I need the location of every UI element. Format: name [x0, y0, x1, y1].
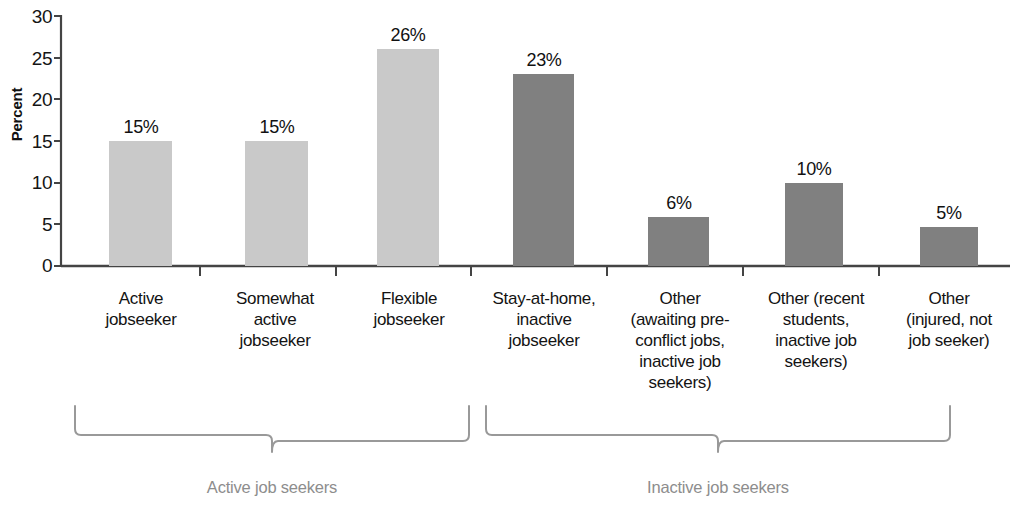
- x-category-line: job seeker): [884, 330, 1014, 351]
- bar-3: [513, 74, 574, 266]
- x-category-label-3: Stay-at-home, inactive jobseeker: [476, 288, 612, 351]
- x-category-label-0: Active jobseeker: [75, 288, 207, 330]
- group-label-inactive: Inactive job seekers: [612, 478, 824, 497]
- x-category-label-4: Other (awaiting pre- conflict jobs, inac…: [612, 288, 748, 393]
- x-category-line: inactive: [476, 309, 612, 330]
- bar-0: [109, 141, 172, 266]
- x-category-line: (awaiting pre-: [612, 309, 748, 330]
- x-axis: [61, 266, 1010, 276]
- x-category-line: (injured, not: [884, 309, 1014, 330]
- x-category-line: conflict jobs,: [612, 330, 748, 351]
- bar-value-2: 26%: [367, 25, 449, 46]
- bar-value-1: 15%: [236, 117, 318, 138]
- x-category-line: jobseeker: [209, 330, 341, 351]
- x-category-line: Other: [884, 288, 1014, 309]
- plot-area: [0, 0, 1020, 506]
- x-category-line: Stay-at-home,: [476, 288, 612, 309]
- y-axis: [54, 15, 61, 267]
- x-category-label-2: Flexible jobseeker: [343, 288, 475, 330]
- bars: [109, 49, 978, 266]
- x-category-line: seekers): [747, 351, 885, 372]
- bar-value-0: 15%: [100, 117, 182, 138]
- bar-6: [920, 227, 978, 266]
- x-category-line: active: [209, 309, 341, 330]
- group-brace-inactive: [486, 406, 950, 452]
- bar-1: [245, 141, 308, 266]
- bar-value-3: 23%: [503, 50, 585, 71]
- x-category-label-6: Other (injured, not job seeker): [884, 288, 1014, 351]
- x-category-line: students,: [747, 309, 885, 330]
- x-category-line: jobseeker: [476, 330, 612, 351]
- bar-value-6: 5%: [908, 203, 990, 224]
- bar-chart: Percent 30 25 20 15 10 5 0: [0, 0, 1020, 506]
- x-category-label-1: Somewhat active jobseeker: [209, 288, 341, 351]
- x-category-line: Somewhat: [209, 288, 341, 309]
- group-brace-active: [75, 406, 469, 452]
- x-category-line: jobseeker: [343, 309, 475, 330]
- x-category-line: jobseeker: [75, 309, 207, 330]
- group-label-active: Active job seekers: [172, 478, 372, 497]
- bar-value-4: 6%: [638, 193, 720, 214]
- x-category-line: Flexible: [343, 288, 475, 309]
- x-category-line: seekers): [612, 372, 748, 393]
- bar-5: [785, 183, 843, 266]
- x-category-line: Other: [612, 288, 748, 309]
- bar-2: [377, 49, 439, 266]
- x-category-line: inactive job: [747, 330, 885, 351]
- x-category-label-5: Other (recent students, inactive job see…: [747, 288, 885, 372]
- x-category-line: inactive job: [612, 351, 748, 372]
- x-category-line: Active: [75, 288, 207, 309]
- bar-4: [648, 217, 709, 266]
- bar-value-5: 10%: [773, 159, 855, 180]
- x-category-line: Other (recent: [747, 288, 885, 309]
